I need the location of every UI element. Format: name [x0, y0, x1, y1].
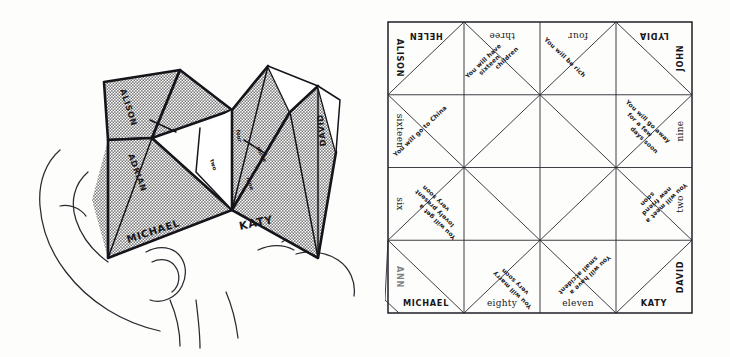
grid-top-label-three: three: [489, 31, 515, 41]
fortune-small-accident: You will have a small accident: [557, 248, 613, 302]
grid-lines: [388, 22, 692, 313]
grid-bottom-label-eighty: eighty: [487, 298, 518, 308]
grid-left-label-alison: ALISON: [395, 39, 405, 78]
panel-hand-holding-fortune-teller: ALISON ADRIAN MICHAEL KATY DAVID four tw…: [0, 0, 385, 357]
grid-right-label-john: JOHN: [675, 45, 685, 73]
grid-top-label-four: four: [568, 31, 588, 41]
grid-top-label-lydia: LYDIA: [639, 31, 669, 41]
fortune-sixteen-children: You will have sixteen children: [463, 35, 520, 90]
grid-top-label-helen: HELEN: [409, 31, 443, 41]
fortune-go-away: You will go away for a few days soon: [612, 97, 672, 156]
grid-right-label-david: DAVID: [675, 261, 685, 293]
grid-left-label-six: six: [395, 197, 405, 210]
grid-bottom-label-michael: MICHAEL: [403, 298, 449, 308]
grid-bottom-label-eleven: eleven: [562, 298, 594, 308]
grid-right-label-nine: nine: [675, 121, 685, 142]
panel-unfolded-grid: HELEN three four LYDIA JOHN nine two DAV…: [385, 0, 730, 357]
fortune-teller-figure: ALISON ADRIAN MICHAEL KATY DAVID four tw…: [0, 0, 730, 357]
grid-bottom-label-katy: KATY: [641, 298, 668, 308]
grid-left-label-ann: ANN: [395, 266, 405, 288]
